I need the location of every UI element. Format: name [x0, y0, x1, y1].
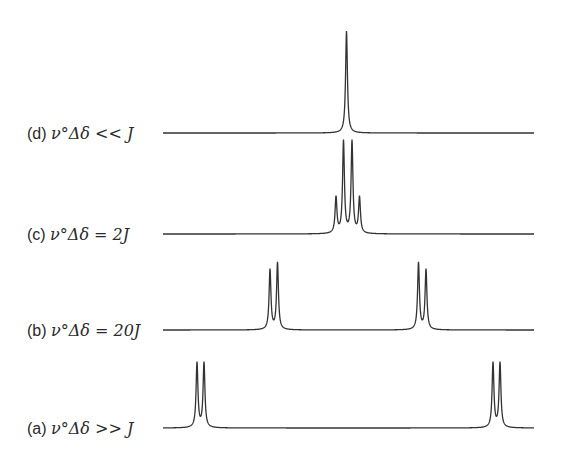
spectrum-label-c: (c) ν°Δδ = 2J — [27, 226, 129, 244]
label-prefix: (c) — [27, 226, 46, 243]
spectrum-label-a: (a) ν°Δδ >> J — [27, 420, 133, 438]
label-prefix: (d) — [27, 125, 47, 142]
spectrum-trace-b — [163, 262, 534, 330]
spectrum-label-b: (b) ν°Δδ = 20J — [27, 322, 140, 340]
spectrum-trace-d — [163, 31, 534, 133]
spectrum-trace-a — [163, 361, 534, 428]
label-condition: ν°Δδ << J — [51, 124, 133, 143]
label-prefix: (b) — [27, 322, 47, 339]
label-condition: ν°Δδ = 20J — [51, 321, 140, 340]
nmr-spectra-figure: (d) ν°Δδ << J (c) ν°Δδ = 2J (b) ν°Δδ = 2… — [0, 0, 561, 462]
spectrum-label-d: (d) ν°Δδ << J — [27, 125, 133, 143]
label-prefix: (a) — [27, 420, 47, 437]
label-condition: ν°Δδ >> J — [51, 419, 133, 438]
label-condition: ν°Δδ = 2J — [50, 225, 129, 244]
spectrum-trace-c — [163, 140, 534, 234]
